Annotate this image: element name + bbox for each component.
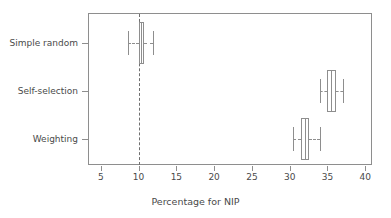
whisker-low-line [293,139,301,140]
whisker-low-cap [320,79,321,103]
whisker-high-cap [320,127,321,151]
x-axis-title: Percentage for NIP [0,196,391,207]
y-tick-self-selection [82,91,88,92]
whisker-low-line [128,43,139,44]
x-tick-20 [214,166,215,171]
x-tick-label-35: 35 [312,172,342,183]
median-line [305,118,306,160]
y-label-simple-random: Simple random [10,38,79,48]
whisker-high-line [309,139,320,140]
x-tick-label-25: 25 [237,172,267,183]
x-tick-15 [176,166,177,171]
x-tick-25 [252,166,253,171]
median-line [141,22,142,64]
x-tick-label-5: 5 [86,172,116,183]
y-label-weighting: Weighting [33,134,78,144]
whisker-high-cap [343,79,344,103]
boxplot-chart: Simple random Self-selection Weighting 5… [0,0,391,218]
whisker-low-cap [128,31,129,55]
y-tick-weighting [82,139,88,140]
x-tick-label-10: 10 [124,172,154,183]
x-tick-40 [365,166,366,171]
x-tick-10 [139,166,140,171]
whisker-high-cap [153,31,154,55]
whisker-low-cap [293,127,294,151]
whisker-low-line [320,91,327,92]
y-label-self-selection: Self-selection [18,86,78,96]
x-tick-label-30: 30 [275,172,305,183]
y-tick-simple-random [82,43,88,44]
whisker-high-line [336,91,343,92]
x-tick-30 [290,166,291,171]
median-line [331,70,332,112]
x-tick-label-40: 40 [350,172,380,183]
x-tick-5 [101,166,102,171]
whisker-high-line [144,43,153,44]
x-tick-label-20: 20 [199,172,229,183]
x-tick-label-15: 15 [161,172,191,183]
x-tick-35 [327,166,328,171]
